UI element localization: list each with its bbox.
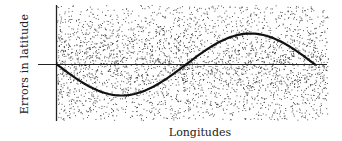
chart-figure: Errors in latitude Longitudes <box>0 0 342 141</box>
plot-area <box>0 0 342 141</box>
y-axis-label: Errors in latitude <box>18 14 31 114</box>
stipple-background <box>57 5 329 121</box>
x-axis-label: Longitudes <box>169 126 231 139</box>
